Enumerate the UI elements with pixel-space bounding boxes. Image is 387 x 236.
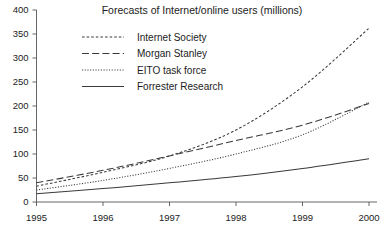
chart-title: Forecasts of Internet/online users (mill… bbox=[102, 4, 303, 16]
x-axis-tick-label: 1995 bbox=[26, 212, 47, 223]
legend-label: Forrester Research bbox=[137, 81, 223, 92]
x-axis-tick-labels: 199519961997199819992000 bbox=[26, 212, 380, 223]
y-axis-tick-label: 250 bbox=[13, 76, 29, 87]
y-axis-tick-label: 150 bbox=[13, 124, 29, 135]
series-line bbox=[37, 104, 370, 183]
y-axis-tick-marks bbox=[33, 10, 37, 202]
legend-label: Morgan Stanley bbox=[137, 48, 207, 59]
x-axis-tick-label: 1997 bbox=[159, 212, 180, 223]
x-axis-tick-marks bbox=[37, 202, 370, 206]
x-axis-tick-label: 2000 bbox=[358, 212, 379, 223]
chart-container: 050100150200250300350400 199519961997199… bbox=[0, 0, 387, 236]
y-axis-tick-labels: 050100150200250300350400 bbox=[13, 4, 29, 207]
y-axis-tick-label: 50 bbox=[18, 172, 29, 183]
x-axis-tick-label: 1996 bbox=[92, 212, 113, 223]
chart-legend: Internet SocietyMorgan StanleyEITO task … bbox=[82, 32, 223, 93]
legend-label: EITO task force bbox=[137, 65, 207, 76]
legend-label: Internet Society bbox=[137, 32, 206, 43]
y-axis-tick-label: 300 bbox=[13, 52, 29, 63]
series-line bbox=[37, 102, 370, 190]
y-axis-tick-label: 200 bbox=[13, 100, 29, 111]
y-axis-tick-label: 350 bbox=[13, 28, 29, 39]
x-axis-tick-label: 1998 bbox=[225, 212, 246, 223]
y-axis-tick-label: 0 bbox=[23, 196, 28, 207]
y-axis-tick-label: 100 bbox=[13, 148, 29, 159]
chart-canvas: 050100150200250300350400 199519961997199… bbox=[0, 0, 387, 236]
y-axis-tick-label: 400 bbox=[13, 4, 29, 15]
x-axis-tick-label: 1999 bbox=[292, 212, 313, 223]
